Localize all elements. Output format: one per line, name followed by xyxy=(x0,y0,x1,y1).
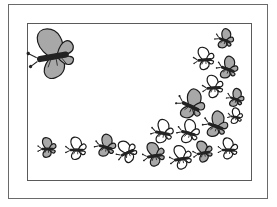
butterfly-icon xyxy=(171,84,210,123)
butterfly-icon xyxy=(174,117,202,146)
butterfly-icon xyxy=(199,107,231,140)
butterfly-icon xyxy=(23,25,78,82)
butterfly-group xyxy=(23,25,247,171)
butterfly-icon xyxy=(112,137,141,166)
butterfly-icon xyxy=(224,86,247,109)
butterfly-icon xyxy=(167,144,193,171)
butterfly-icon xyxy=(212,26,236,51)
butterfly-icon xyxy=(201,74,224,98)
butterfly-icon xyxy=(213,53,241,81)
butterfly-icon xyxy=(65,137,86,159)
butterfly-icon xyxy=(92,132,118,159)
butterfly-icon xyxy=(140,141,166,168)
butterfly-icon xyxy=(226,107,243,125)
butterfly-icon xyxy=(191,139,214,163)
butterfly-icon xyxy=(192,46,215,70)
butterfly-icon xyxy=(37,138,56,158)
butterfly-icon xyxy=(218,138,238,159)
butterfly-illustration xyxy=(0,0,277,207)
butterfly-icon xyxy=(149,118,175,145)
